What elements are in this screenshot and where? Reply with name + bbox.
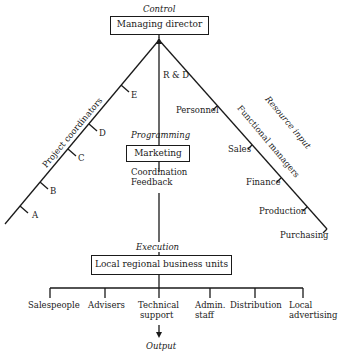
tick-label-d: D	[99, 128, 106, 138]
unit-local: Local	[289, 300, 312, 310]
execution-label: Execution	[136, 242, 179, 252]
unit-advisers: Advisers	[88, 300, 125, 310]
unit-admin: Admin.	[195, 300, 226, 310]
rnd-label: R & D	[163, 70, 189, 80]
unit-distribution: Distribution	[230, 300, 282, 310]
unit-technical: Technical	[138, 300, 179, 310]
unit-salespeople: Salespeople	[28, 300, 80, 310]
tick-label-b: B	[50, 186, 56, 196]
tick-label-e: E	[131, 90, 137, 100]
control-label: Control	[143, 4, 175, 14]
tick-label-personnel: Personnel	[176, 105, 219, 115]
local-regional-units-box: Local regional business units	[91, 255, 232, 275]
tick-label-finance: Finance	[246, 177, 280, 187]
tick-label-sales: Sales	[228, 144, 251, 154]
unit-advertising: advertising	[289, 310, 338, 320]
coordination-label: Coordination	[131, 167, 187, 177]
tick-label-a: A	[32, 210, 38, 220]
programming-label: Programming	[131, 130, 190, 140]
tick-label-production: Production	[259, 206, 306, 216]
feedback-label: Feedback	[131, 177, 172, 187]
unit-support: support	[140, 310, 173, 320]
marketing-box: Marketing	[126, 145, 190, 162]
output-label: Output	[146, 341, 176, 351]
unit-staff: staff	[195, 310, 214, 320]
managing-director-box: Managing director	[110, 16, 209, 35]
tick-label-c: C	[78, 153, 85, 163]
tick-label-purchasing: Purchasing	[280, 230, 329, 240]
